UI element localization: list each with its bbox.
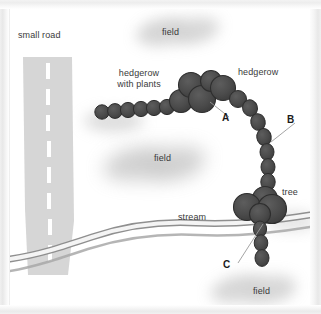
figure-container: small road hedgerow with plants hedgerow… [0, 0, 321, 314]
frame-edge-top [0, 0, 321, 9]
hedgerow-vertical-chain [240, 98, 275, 191]
label-hedgerow-with-plants: hedgerow with plants [106, 68, 172, 90]
label-tree: tree [282, 187, 298, 198]
frame-edge-left [0, 0, 9, 314]
label-field-middle: field [154, 153, 171, 164]
hedgerow-south-chain [253, 221, 269, 266]
callout-label-c: C [223, 259, 230, 270]
tree-cluster [234, 187, 287, 225]
frame-edge-bottom [0, 305, 321, 314]
label-stream: stream [178, 212, 206, 223]
label-hedgerow-with-plants-line2: with plants [117, 79, 161, 89]
callout-label-b: B [287, 114, 294, 125]
callout-label-a: A [222, 112, 229, 123]
hedgerow-large-circles [170, 71, 247, 113]
frame-edge-right [309, 0, 321, 314]
map-panel: small road hedgerow with plants hedgerow… [10, 9, 310, 305]
label-hedgerow: hedgerow [238, 67, 278, 78]
label-small-road: small road [18, 30, 61, 41]
label-hedgerow-with-plants-line1: hedgerow [119, 68, 159, 78]
label-field-top: field [162, 27, 179, 38]
leader-line-b [271, 123, 295, 142]
label-field-bottom: field [253, 286, 270, 297]
